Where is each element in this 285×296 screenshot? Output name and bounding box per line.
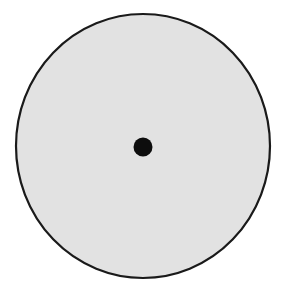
circle-diagram	[0, 0, 285, 296]
center-dot	[134, 138, 153, 157]
